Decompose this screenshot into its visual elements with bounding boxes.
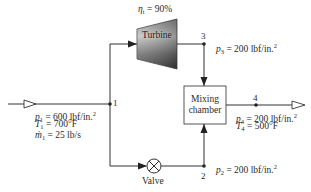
valve-inlet-arrow-icon [138,163,147,170]
turbine [137,19,177,69]
state-4-temperature: T4 = 500°F [236,121,278,134]
inlet-stream [8,100,110,108]
node-4-label: 4 [253,93,258,103]
node-1-dot [108,102,112,106]
state-1-mass-flow: ṁ1 = 25 lb/s [35,130,81,143]
valve-icon [147,159,161,173]
mixing-chamber-label: Mixing chamber [184,94,226,116]
turbine-label: Turbine [142,30,172,40]
turbine-inlet-arrow-icon [128,41,137,48]
valve-label: Valve [142,176,164,187]
node-4-dot [254,103,258,107]
inlet-arrow-icon [24,100,36,108]
node-2-label: 2 [201,171,206,181]
exit-arrow-icon [292,101,305,109]
node-3-label: 3 [201,31,206,41]
node-1-label: 1 [113,98,118,108]
stream-2-arrow-icon [201,124,208,133]
state-3-pressure: p3 = 200 lbf/in.2 [216,40,277,57]
stream-3-arrow-icon [201,77,208,86]
turbine-efficiency-label: ηt = 90% [138,4,172,17]
state-2-pressure: p2 = 200 lbf/in.2 [216,161,277,178]
